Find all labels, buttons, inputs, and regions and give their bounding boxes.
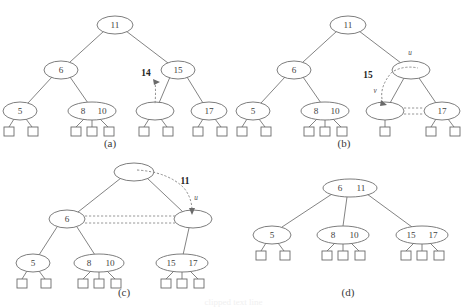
external-leaf-box — [71, 127, 81, 136]
leaf-node-5-key-0: 5 — [18, 106, 23, 116]
leaf-node-15-17-key-0: 15 — [406, 230, 416, 240]
external-leaf-box — [78, 279, 88, 288]
edge-8-10-to-leafbox-3 — [107, 271, 115, 279]
edge-root-to-5 — [282, 194, 332, 227]
leaf-node-15-17 — [156, 254, 208, 272]
external-leaf-box — [237, 127, 247, 136]
external-leaf-box — [28, 127, 38, 136]
tree-diagram-svg: 11 6 15 5 8 10 17 — [0, 0, 467, 307]
external-leaf-box — [94, 279, 104, 288]
root-node-empty — [114, 163, 154, 181]
edge-root-to-6 — [70, 31, 104, 62]
root-node-key-0: 6 — [338, 183, 343, 193]
edge-15-to-empty — [159, 77, 170, 103]
internal-node-15-key-0: 15 — [173, 65, 183, 75]
insert-key-callout-group: 14 — [141, 68, 160, 104]
leaf-node-15-17-key-1: 17 — [188, 258, 198, 268]
external-leaf-box — [104, 127, 114, 136]
leaf-node-8-10-key-1: 10 — [349, 230, 359, 240]
edge-root-to-15 — [126, 31, 168, 63]
edge-8-10-to-leafbox-1 — [83, 271, 91, 279]
promoted-key-callout: 11 — [181, 176, 190, 186]
edge-17-to-leafbox-2 — [215, 119, 221, 127]
edge-17-to-leafbox-1 — [198, 119, 203, 127]
panel-c: 6 5 8 10 15 17 — [16, 163, 212, 299]
edge-15-17-to-leafbox-1 — [406, 243, 414, 251]
panel-a: 11 6 15 5 8 10 17 — [3, 16, 227, 150]
edge-5-to-leafbox-2 — [39, 271, 45, 279]
leaf-node-5-key-0: 5 — [251, 106, 256, 116]
leaf-node-8-10 — [301, 102, 349, 120]
leaf-node-8-10 — [68, 102, 116, 120]
edge-6-to-8-10 — [70, 77, 88, 103]
panel-a-leaf-boxes — [4, 127, 227, 136]
external-leaf-box — [338, 251, 348, 260]
external-leaf-box — [417, 251, 427, 260]
external-leaf-box — [355, 251, 365, 260]
edge-empty-to-leafbox-2 — [161, 119, 167, 127]
external-leaf-box — [280, 251, 290, 260]
overflow-key-callout: 15 — [363, 70, 373, 80]
panel-b-nodes: 11 6 5 8 10 17 — [236, 16, 460, 120]
panel-c-leaf-boxes — [17, 279, 204, 288]
edge-6-to-8-10 — [303, 77, 321, 103]
external-leaf-box — [163, 127, 173, 136]
insert-key-callout: 14 — [141, 68, 151, 78]
edge-root-to-u — [359, 31, 401, 63]
leaf-node-8-10-key-0: 8 — [314, 106, 319, 116]
leaf-node-8-10-key-0: 8 — [331, 230, 336, 240]
external-leaf-box — [401, 251, 411, 260]
internal-node-u-empty — [174, 210, 212, 228]
edge-5-to-leafbox-2 — [278, 243, 284, 251]
external-leaf-box — [450, 127, 460, 136]
edge-u-to-v — [390, 78, 404, 103]
external-leaf-box — [41, 279, 51, 288]
edge-6-to-5 — [28, 77, 52, 103]
leaf-node-8-10 — [317, 226, 369, 244]
external-leaf-box — [194, 279, 204, 288]
edge-5-to-leafbox-2 — [26, 119, 32, 127]
internal-node-6-key-0: 6 — [65, 214, 70, 224]
edge-15-17-to-leafbox-3 — [430, 243, 438, 251]
root-node-6-11 — [323, 179, 377, 197]
leaf-node-empty — [136, 102, 174, 120]
edge-15-17-to-leafbox-3 — [190, 271, 198, 279]
insert-callout-arrowhead — [153, 79, 160, 85]
edge-5-to-leafbox-1 — [9, 119, 14, 127]
panel-b: 11 6 5 8 10 17 — [236, 16, 460, 150]
external-leaf-box — [17, 279, 27, 288]
leaf-node-15-17-key-1: 17 — [428, 230, 438, 240]
external-leaf-box — [193, 127, 203, 136]
panel-d: 6 11 5 8 10 15 17 (d) — [253, 179, 448, 299]
leaf-node-8-10-key-0: 8 — [81, 106, 86, 116]
internal-node-6-key-0: 6 — [292, 65, 297, 75]
external-leaf-box — [337, 127, 347, 136]
edge-8-10-to-leafbox-3 — [333, 119, 341, 127]
sibling-dashed-links — [85, 216, 175, 223]
root-node-key-1: 11 — [357, 183, 366, 193]
edge-17-to-leafbox-2 — [448, 119, 454, 127]
external-leaf-box — [161, 279, 171, 288]
edge-5-to-leafbox-1 — [261, 243, 266, 251]
root-node-key-0: 11 — [344, 20, 353, 30]
edge-6-to-5 — [39, 227, 57, 255]
external-leaf-box — [4, 127, 14, 136]
edge-root-to-u — [147, 178, 183, 212]
clipped-caption-text: clipped text line — [0, 297, 467, 307]
leaf-node-5-key-0: 5 — [31, 258, 36, 268]
leaf-node-8-10 — [74, 254, 124, 272]
edge-8-10-to-leafbox-1 — [309, 119, 317, 127]
external-leaf-box — [256, 251, 266, 260]
edge-6-to-8-10 — [77, 227, 95, 255]
internal-node-6-key-0: 6 — [59, 65, 64, 75]
edge-root-to-6 — [78, 178, 121, 212]
edge-empty-to-leafbox-1 — [144, 119, 149, 127]
edge-5-to-leafbox-1 — [22, 271, 27, 279]
panel-label-b: (b) — [338, 137, 351, 150]
edge-8-10-to-leafbox-1 — [327, 243, 335, 251]
leaf-node-17-key-0: 17 — [437, 106, 447, 116]
edge-15-17-to-leafbox-1 — [166, 271, 174, 279]
leaf-node-8-10-key-1: 10 — [105, 258, 115, 268]
external-leaf-box — [217, 127, 227, 136]
edge-17-to-leafbox-1 — [431, 119, 436, 127]
